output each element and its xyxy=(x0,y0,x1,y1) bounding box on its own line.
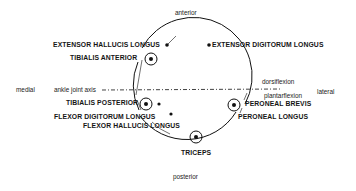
lateral-label: lateral xyxy=(317,89,334,95)
tibialis-anterior-dot xyxy=(149,57,153,61)
flexor-hallucis-longus-label: FLEXOR HALLUCIS LONGUS xyxy=(83,123,180,130)
ankle-joint-axis-label: ankle joint axis xyxy=(54,87,96,93)
ankle-joint-axis-line xyxy=(102,89,282,90)
tibialis-anterior-label: TIBIALIS ANTERIOR xyxy=(70,55,137,62)
extensor-digitorum-longus-dot xyxy=(207,43,211,47)
peroneal-brevis-dot xyxy=(232,103,236,107)
anterior-label: anterior xyxy=(175,10,197,16)
triceps-dot xyxy=(194,135,198,139)
medial-label: medial xyxy=(16,87,35,93)
tibialis-posterior-dot xyxy=(144,102,148,106)
flexor-hallucis-longus-dot xyxy=(169,112,172,115)
tibialis-posterior-label: TIBIALIS POSTERIOR xyxy=(66,100,138,107)
extensor-hallucis-longus-label: EXTENSOR HALLUCIS LONGUS xyxy=(53,42,160,49)
peroneal-longus-label: PERONEAL LONGUS xyxy=(238,114,308,121)
plantarflexion-label: plantarflexion xyxy=(264,93,302,99)
leader-peroneal-brevis xyxy=(244,93,247,100)
posterior-label: posterior xyxy=(173,174,198,180)
dorsiflexion-label: dorsiflexion xyxy=(262,79,294,85)
extensor-digitorum-longus-label: EXTENSOR DIGITORUM LONGUS xyxy=(212,42,324,49)
extensor-hallucis-longus-dot xyxy=(165,43,169,47)
triceps-label: TRICEPS xyxy=(181,150,211,157)
diagram-graphics xyxy=(0,0,356,191)
flexor-digitorum-longus-dot xyxy=(157,102,160,105)
peroneal-brevis-label: PERONEAL BREVIS xyxy=(245,101,311,108)
flexor-digitorum-longus-label: FLEXOR DIGITORUM LONGUS xyxy=(54,114,156,121)
